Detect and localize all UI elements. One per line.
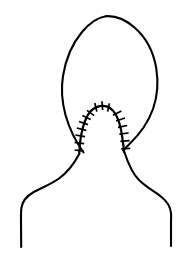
medical-figure [0, 0, 183, 261]
suture-tick [120, 141, 129, 142]
suture-tick [102, 101, 103, 110]
line-drawing-canvas [0, 0, 183, 261]
suture-tick [75, 143, 85, 144]
figure-background [0, 0, 183, 261]
suture-tick [119, 133, 128, 134]
suture-tick [75, 150, 84, 151]
